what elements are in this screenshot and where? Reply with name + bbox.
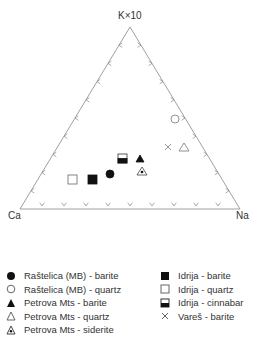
petrova-siderite-point: [137, 167, 147, 175]
open-circle-icon: [6, 284, 18, 294]
dotted-triangle-icon: [6, 325, 18, 335]
axis-ticks: [31, 43, 229, 206]
legend-item: Idrija - barite: [160, 269, 243, 283]
idrija-cinnabar-point: [118, 154, 127, 163]
legend-item: Idrija - cinnabar: [160, 296, 243, 310]
idrija-quartz-point: [68, 175, 77, 184]
filled-circle-icon: [6, 271, 18, 281]
filled-triangle-icon: [6, 298, 18, 308]
legend-item: Idrija - quartz: [160, 283, 243, 297]
idrija-barite-point: [88, 175, 97, 184]
vertex-label-right: Na: [236, 210, 249, 221]
vertex-label-left: Ca: [8, 210, 21, 221]
legend-item: Petrova Mts - barite: [6, 296, 121, 310]
ternary-plot: [0, 0, 264, 230]
triangle-frame: [20, 27, 240, 209]
vertex-label-top: K×10: [118, 10, 142, 21]
petrova-barite-point: [136, 155, 144, 162]
rastelica-quartz-point: [171, 115, 179, 123]
legend-item: Petrova Mts - quartz: [6, 310, 121, 324]
legend-col-2: Idrija - barite Idrija - quartz Idrija -…: [160, 269, 243, 323]
filled-square-icon: [160, 271, 172, 281]
legend-item: Petrova Mts - siderite: [6, 323, 121, 337]
legend-item: Raštelica (MB) - quartz: [6, 283, 121, 297]
data-points: [68, 115, 189, 184]
legend-item: Vareš - barite: [160, 310, 243, 324]
rastelica-barite-point: [106, 170, 114, 178]
vares-barite-point: [165, 144, 171, 150]
legend-col-1: Raštelica (MB) - barite Raštelica (MB) -…: [6, 269, 121, 337]
petrova-quartz-point: [179, 143, 189, 151]
open-square-icon: [160, 284, 172, 294]
open-triangle-icon: [6, 311, 18, 321]
half-square-icon: [160, 298, 172, 308]
cross-icon: [160, 311, 172, 321]
legend-item: Raštelica (MB) - barite: [6, 269, 121, 283]
